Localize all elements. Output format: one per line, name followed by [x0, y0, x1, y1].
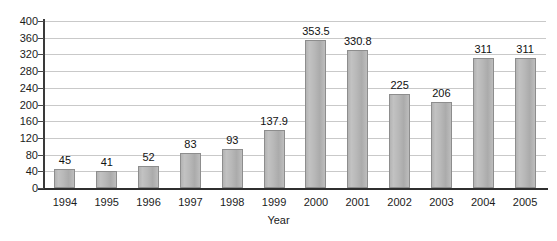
y-axis-tick-label: 160: [4, 116, 38, 127]
y-axis-tick: [38, 188, 44, 189]
x-axis-tick-label: 2005: [497, 196, 553, 208]
y-axis-tick: [38, 21, 44, 22]
bar: [180, 153, 201, 188]
bar: [264, 130, 285, 188]
bar: [96, 171, 117, 188]
bar-value-label: 137.9: [246, 116, 302, 127]
y-axis-labels: 04080120160200240280320360400: [0, 0, 38, 241]
bar: [54, 169, 75, 188]
y-axis-tick: [38, 121, 44, 122]
y-axis-tick: [38, 138, 44, 139]
y-axis-tick-label: 200: [4, 100, 38, 111]
bar-value-label: 206: [413, 88, 469, 99]
y-axis-tick-label: 80: [4, 150, 38, 161]
y-axis-tick: [38, 171, 44, 172]
bar-value-label: 311: [497, 44, 553, 55]
bar: [222, 149, 243, 188]
y-axis-tick-label: 0: [4, 183, 38, 194]
y-axis-tick: [38, 155, 44, 156]
bar-value-label: 52: [121, 152, 177, 163]
bar-value-label: 93: [204, 135, 260, 146]
bar: [473, 58, 494, 188]
y-axis-tick-label: 40: [4, 166, 38, 177]
bar: [389, 94, 410, 188]
y-axis-tick: [38, 54, 44, 55]
y-axis-tick: [38, 88, 44, 89]
y-axis-tick-label: 120: [4, 133, 38, 144]
bar-chart: 04080120160200240280320360400 4519944119…: [0, 0, 557, 241]
y-axis-tick: [38, 38, 44, 39]
bar: [515, 58, 536, 188]
y-axis-tick: [38, 105, 44, 106]
y-axis-tick-label: 240: [4, 83, 38, 94]
y-axis-tick-label: 280: [4, 66, 38, 77]
y-axis-tick: [38, 71, 44, 72]
y-axis-tick-label: 360: [4, 33, 38, 44]
bar-value-label: 330.8: [330, 36, 386, 47]
bar: [347, 50, 368, 188]
bar: [305, 40, 326, 188]
y-axis-tick-label: 320: [4, 49, 38, 60]
x-axis-title: Year: [0, 214, 557, 226]
x-axis-line: [38, 188, 548, 190]
y-axis-tick-label: 400: [4, 16, 38, 27]
bar: [138, 166, 159, 188]
bar: [431, 102, 452, 188]
